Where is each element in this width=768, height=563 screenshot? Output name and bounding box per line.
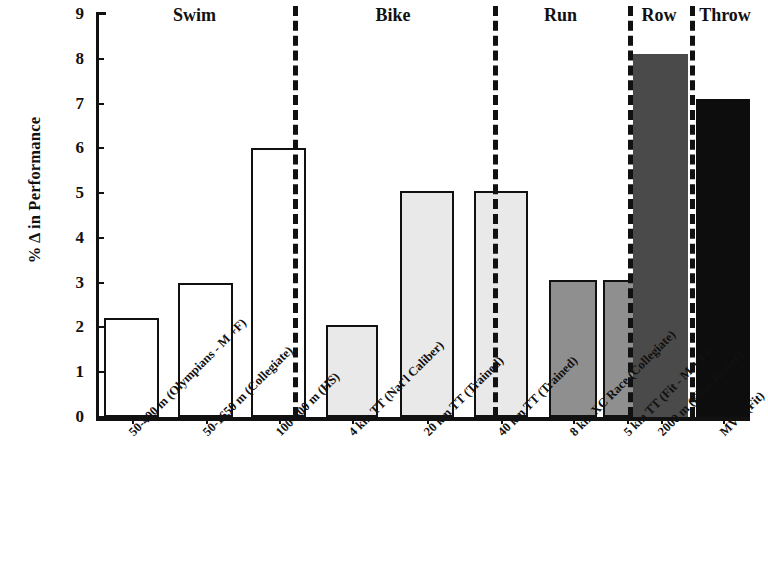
group-separator: [628, 6, 633, 417]
group-label-bike: Bike: [293, 6, 493, 26]
group-label-swim: Swim: [96, 6, 293, 26]
bar: [104, 318, 159, 417]
bar: [549, 280, 597, 417]
group-label-row: Row: [628, 6, 690, 26]
x-axis-labels: 50-400 m (Olympians - M +F)50-1650 m (Co…: [0, 421, 750, 563]
group-label-run: Run: [493, 6, 628, 26]
group-label-throw: Throw: [690, 6, 760, 26]
